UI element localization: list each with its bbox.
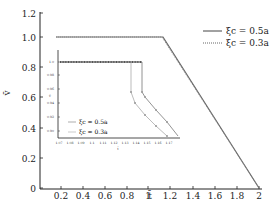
inset: 1.0 0.98 0.96 0.94 0.92 0.90 v̄ 1.071.08…	[47, 50, 180, 151]
svg-text:2: 2	[256, 191, 262, 199]
svg-text:1.17: 1.17	[165, 141, 172, 145]
svg-text:0.92: 0.92	[47, 115, 54, 119]
svg-text:1.15: 1.15	[143, 141, 150, 145]
chart: 0 0.2 0.4 0.6 0.8 1.0 1.2 v̄ 0.2 0.4 0.6…	[0, 0, 271, 199]
inset-markers	[130, 91, 168, 137]
svg-text:1.4: 1.4	[186, 191, 201, 199]
svg-text:1.08: 1.08	[66, 141, 73, 145]
x-axis-label: t̄	[148, 190, 152, 199]
inset-x-tick-labels: 1.071.081.09 1.11.111.12 1.131.141.15 1.…	[55, 141, 172, 145]
svg-text:1.07: 1.07	[55, 141, 62, 145]
svg-text:1.1: 1.1	[89, 141, 94, 145]
svg-text:1.2: 1.2	[163, 191, 177, 199]
legend-label-0.3a: ξc = 0.3a	[226, 38, 270, 48]
inset-series-0.5a	[60, 62, 178, 136]
legend: ξc = 0.5a ξc = 0.3a	[203, 26, 270, 48]
svg-text:0.4: 0.4	[22, 124, 37, 134]
svg-text:0.2: 0.2	[54, 191, 68, 199]
svg-text:1.16: 1.16	[154, 141, 161, 145]
svg-text:0.98: 0.98	[47, 73, 54, 77]
inset-x-label: t̄	[117, 146, 120, 151]
inset-series-0.3a	[60, 62, 167, 136]
svg-text:0.4: 0.4	[76, 191, 91, 199]
y-tick-labels: 0 0.2 0.4 0.6 0.8 1.0 1.2	[22, 9, 37, 194]
svg-text:0.2: 0.2	[22, 154, 36, 164]
svg-text:0: 0	[30, 184, 36, 194]
svg-text:0.8: 0.8	[120, 191, 135, 199]
svg-text:1.2: 1.2	[22, 9, 36, 19]
series-xi-0.3a	[56, 37, 259, 188]
svg-text:ξc = 0.5a: ξc = 0.5a	[79, 118, 108, 126]
svg-text:1.6: 1.6	[208, 191, 223, 199]
svg-text:1.13: 1.13	[121, 141, 128, 145]
x-tick-labels: 0.2 0.4 0.6 0.8 1 1.2 1.4 1.6 1.8 2	[54, 191, 262, 199]
inset-y-label: v̄	[48, 94, 51, 98]
svg-text:1.0: 1.0	[49, 60, 54, 64]
svg-text:1.8: 1.8	[230, 191, 245, 199]
svg-text:ξc = 0.3a: ξc = 0.3a	[79, 128, 108, 136]
legend-label-0.5a: ξc = 0.5a	[226, 26, 270, 36]
svg-text:0.6: 0.6	[22, 93, 37, 103]
svg-text:0.6: 0.6	[98, 191, 113, 199]
y-axis-label: v̄	[2, 90, 12, 97]
svg-text:1.09: 1.09	[77, 141, 84, 145]
inset-legend: ξc = 0.5a ξc = 0.3a	[68, 118, 108, 136]
series-xi-0.5a	[56, 37, 259, 188]
svg-text:0.90: 0.90	[47, 129, 54, 133]
svg-text:0.8: 0.8	[22, 63, 37, 73]
svg-text:1.14: 1.14	[132, 141, 139, 145]
svg-text:0.96: 0.96	[47, 87, 54, 91]
svg-text:1.12: 1.12	[110, 141, 117, 145]
svg-text:1.0: 1.0	[22, 33, 37, 43]
svg-text:0.94: 0.94	[47, 101, 54, 105]
svg-text:1.11: 1.11	[99, 141, 106, 145]
